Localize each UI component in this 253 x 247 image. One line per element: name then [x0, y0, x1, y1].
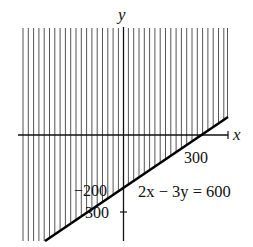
y-tick-label-300: 300 [85, 204, 109, 221]
x-axis-label: x [232, 125, 241, 144]
inequality-graph: y x 300 −200 300 2x − 3y = 600 [0, 0, 253, 247]
x-tick-label-300: 300 [184, 149, 208, 166]
y-axis-label: y [116, 5, 126, 24]
equation-label: 2x − 3y = 600 [138, 182, 231, 201]
y-tick-label-neg200: −200 [74, 182, 107, 199]
